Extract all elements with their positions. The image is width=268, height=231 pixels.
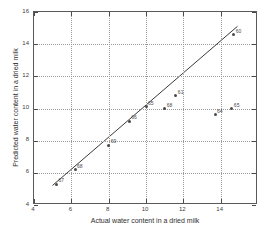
x-axis-tick bbox=[221, 199, 222, 203]
x-axis-tick bbox=[146, 12, 147, 16]
data-point-label: 67 bbox=[58, 177, 64, 183]
gridline-horizontal bbox=[34, 173, 256, 174]
data-point-label: 69 bbox=[111, 138, 117, 144]
figure-canvas: 67686966656861646560 Actual water conten… bbox=[0, 0, 268, 231]
data-point-label: 64 bbox=[217, 108, 223, 114]
data-point-label: 65 bbox=[148, 100, 154, 106]
x-axis-tick-label: 14 bbox=[210, 206, 230, 213]
y-axis-tick-label: 16 bbox=[13, 8, 29, 15]
data-point-label: 68 bbox=[77, 163, 83, 169]
y-axis-tick bbox=[252, 12, 256, 13]
gridline-horizontal bbox=[34, 76, 256, 77]
x-axis-tick bbox=[71, 12, 72, 16]
y-axis-tick bbox=[252, 109, 256, 110]
y-axis-tick bbox=[34, 141, 38, 142]
y-axis-tick-label: 10 bbox=[13, 104, 29, 111]
y-axis-tick bbox=[34, 173, 38, 174]
y-axis-tick bbox=[252, 205, 256, 206]
data-point-label: 60 bbox=[236, 28, 242, 34]
gridline-horizontal bbox=[34, 141, 256, 142]
x-axis-tick-label: 10 bbox=[135, 206, 155, 213]
x-axis-tick-label: 6 bbox=[60, 206, 80, 213]
x-axis-tick bbox=[109, 12, 110, 16]
y-axis-tick bbox=[34, 44, 38, 45]
x-axis-tick bbox=[183, 12, 184, 16]
plot-area: 67686966656861646560 bbox=[33, 11, 257, 204]
x-axis-tick-label: 12 bbox=[172, 206, 192, 213]
gridline-vertical bbox=[71, 12, 72, 203]
gridline-vertical bbox=[109, 12, 110, 203]
y-axis-tick bbox=[252, 141, 256, 142]
x-axis-tick bbox=[183, 199, 184, 203]
x-axis-tick bbox=[34, 199, 35, 203]
y-axis-tick-label: 6 bbox=[13, 168, 29, 175]
data-point-label: 66 bbox=[131, 114, 137, 120]
x-axis-tick bbox=[146, 199, 147, 203]
x-axis-tick bbox=[109, 199, 110, 203]
x-axis-tick-label: 8 bbox=[98, 206, 118, 213]
y-axis-tick bbox=[252, 44, 256, 45]
y-axis-tick-label: 12 bbox=[13, 72, 29, 79]
gridline-vertical bbox=[183, 12, 184, 203]
y-axis-tick bbox=[252, 76, 256, 77]
y-axis-tick-label: 8 bbox=[13, 136, 29, 143]
y-axis-tick bbox=[34, 109, 38, 110]
x-axis-title: Actual water content in a dried milk bbox=[33, 216, 257, 225]
y-axis-tick-label: 14 bbox=[13, 40, 29, 47]
x-axis-tick bbox=[221, 12, 222, 16]
y-axis-tick bbox=[34, 76, 38, 77]
data-point-label: 61 bbox=[178, 89, 184, 95]
data-point-label: 68 bbox=[167, 102, 173, 108]
y-axis-tick bbox=[34, 12, 38, 13]
y-axis-tick bbox=[252, 173, 256, 174]
data-point-label: 65 bbox=[234, 102, 240, 108]
x-axis-tick bbox=[71, 199, 72, 203]
y-axis-tick-label: 4 bbox=[13, 201, 29, 208]
gridline-horizontal bbox=[34, 44, 256, 45]
